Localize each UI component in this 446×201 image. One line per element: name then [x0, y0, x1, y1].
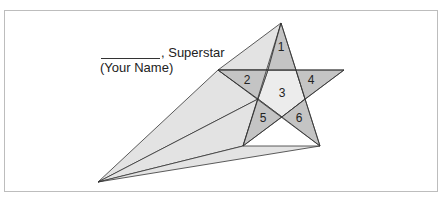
region-label-3: 3: [279, 86, 286, 100]
region-label-4: 4: [308, 73, 315, 87]
region-label-5: 5: [260, 111, 267, 125]
region-label-1: 1: [278, 40, 285, 54]
region-label-6: 6: [296, 111, 303, 125]
shooting-star-diagram: 1 2 3 4 5 6: [0, 0, 446, 201]
region-label-2: 2: [244, 73, 251, 87]
